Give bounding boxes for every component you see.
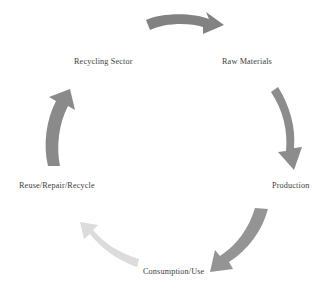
arrow-left [46,89,75,166]
stage-label-consumption-use: Consumption/Use [143,267,204,277]
circular-cycle-diagram [0,0,333,301]
arrow-right [271,87,302,170]
arrow-bottom-left [80,222,139,267]
arrow-top [146,12,224,34]
stage-label-raw-materials: Raw Materials [222,57,272,67]
stage-label-reuse-repair-recycle: Reuse/Repair/Recycle [19,181,95,191]
diagram-canvas: Recycling Sector Raw Materials Productio… [0,0,333,301]
stage-label-production: Production [272,181,309,191]
stage-label-recycling-sector: Recycling Sector [74,57,133,67]
arrow-bottom-right [210,208,268,272]
